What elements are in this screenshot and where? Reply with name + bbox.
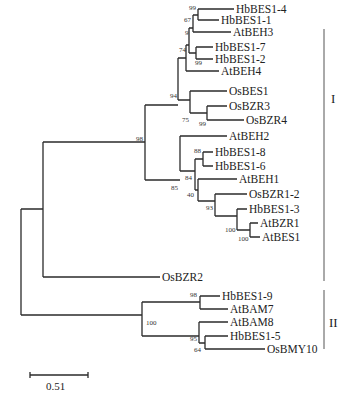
leaf-label: HbBES1-9: [222, 290, 273, 302]
bootstrap-value: 64: [194, 346, 202, 354]
bootstrap-value: 100: [238, 235, 249, 243]
clade-markers: I II: [324, 29, 338, 349]
leaf-label: OsBZR3: [229, 100, 270, 112]
leaf-label: AtBZR1: [260, 217, 300, 229]
bootstrap-value: 99: [199, 120, 207, 128]
bootstrap-value: 85: [171, 184, 179, 192]
bootstrap-value: 99: [195, 59, 203, 67]
leaf-label: AtBEH2: [229, 130, 270, 142]
leaf-label: AtBES1: [262, 231, 301, 243]
bootstrap-value: 9: [185, 29, 189, 37]
leaf-label: OsBZR1-2: [249, 188, 300, 200]
leaf-label: HbBES1-6: [215, 160, 266, 172]
bootstrap-value: 93: [206, 204, 214, 212]
bootstrap-value: 67: [184, 16, 192, 24]
bootstrap-value: 84: [185, 174, 193, 182]
leaf-label: OsBZR2: [162, 271, 203, 283]
leaf-label: AtBEH4: [221, 65, 262, 77]
clade-label-I: I: [331, 91, 335, 106]
leaf-label: OsBMY10: [267, 343, 318, 355]
bootstrap-value: 94: [170, 92, 178, 100]
leaf-label: AtBEH1: [239, 173, 280, 185]
leaf-label: HbBES1-3: [249, 203, 300, 215]
scale-bar: 0.51: [30, 372, 88, 392]
scale-bar-label: 0.51: [46, 380, 65, 392]
leaf-label: OsBZR4: [246, 114, 287, 126]
leaf-label: HbBES1-2: [215, 53, 266, 65]
bootstrap-value: 95: [190, 335, 198, 343]
phylogenetic-tree: HbBES1-4 HbBES1-1 AtBEH3 HbBES1-7 HbBES1…: [0, 0, 354, 407]
bootstrap-value: 88: [194, 147, 202, 155]
bootstrap-value: 100: [225, 226, 236, 234]
bootstrap-value: 98: [190, 291, 198, 299]
leaf-label: HbBES1-5: [230, 330, 281, 342]
leaf-label: OsBES1: [229, 85, 269, 97]
leaf-label: HbBES1-1: [221, 14, 272, 26]
leaf-label: HbBES1-7: [215, 41, 266, 53]
leaf-label: AtBAM8: [230, 316, 274, 328]
bootstrap-value: 40: [187, 191, 195, 199]
leaf-label: HbBES1-8: [215, 146, 266, 158]
clade-label-II: II: [329, 315, 338, 330]
bootstrap-value: 98: [136, 135, 144, 143]
leaf-label: AtBAM7: [230, 303, 274, 315]
bootstrap-value: 99: [189, 4, 197, 12]
bootstrap-value: 74: [179, 46, 187, 54]
leaf-label: AtBEH3: [233, 26, 274, 38]
bootstrap-value: 75: [182, 116, 190, 124]
bootstrap-value: 100: [146, 319, 157, 327]
